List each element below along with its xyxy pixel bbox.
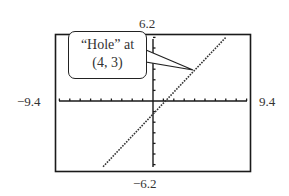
hole-callout: “Hole” at (4, 3) xyxy=(68,31,147,79)
callout-line-2: (4, 3) xyxy=(69,54,146,72)
xmin-label: −9.4 xyxy=(17,95,41,108)
callout-line-1: “Hole” at xyxy=(69,36,146,54)
ymin-label: −6.2 xyxy=(133,177,157,190)
ymax-label: 6.2 xyxy=(139,17,155,30)
xmax-label: 9.4 xyxy=(259,95,275,108)
